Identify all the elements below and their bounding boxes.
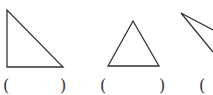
answer-2-open: (	[100, 76, 106, 95]
right-triangle-shape	[7, 10, 63, 67]
answer-1-close: )	[60, 76, 66, 95]
answer-3-open: (	[199, 76, 205, 95]
answer-1-open: (	[3, 76, 9, 95]
triangles-figure	[0, 0, 213, 95]
answer-2-close: )	[159, 76, 165, 95]
equilateral-triangle-shape	[108, 21, 159, 66]
obtuse-triangle-shape	[181, 13, 213, 52]
